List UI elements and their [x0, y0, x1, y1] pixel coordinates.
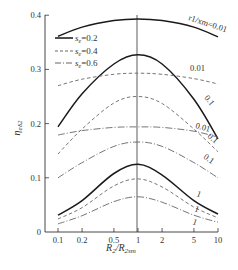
- annotation-0.1-solid: 0.1: [202, 93, 216, 108]
- legend-label: se=0.4: [75, 46, 98, 57]
- y-tick-label: 0.4: [30, 10, 41, 20]
- x-tick-label: 0.1: [53, 235, 64, 245]
- x-axis-label: R2/R2sm: [105, 242, 136, 255]
- curve-dashed: [58, 96, 218, 154]
- annotation-0.01-dashed: 0.01: [190, 63, 205, 73]
- y-tick-label: 0.3: [30, 64, 41, 74]
- y-tick-label: 0.2: [30, 119, 41, 129]
- legend-label: se=0.6: [75, 58, 98, 69]
- x-ticks: 0.10.20.512510: [53, 228, 223, 245]
- annotation-1-solid: 1: [195, 188, 202, 199]
- x-tick-label: 2: [160, 235, 164, 245]
- x-tick-label: 5: [192, 235, 196, 245]
- y-axis-label: ηeδ2: [11, 120, 24, 135]
- x-tick-label: 0.2: [77, 235, 88, 245]
- curve-dashdot: [58, 142, 218, 178]
- y-tick-label: 0: [37, 227, 41, 237]
- x-tick-label: 1: [136, 235, 140, 245]
- chart: 00.10.20.30.4 0.10.20.512510 se=0.2 se=0…: [0, 0, 238, 270]
- y-tick-label: 0.1: [30, 173, 41, 183]
- legend-label: se=0.2: [75, 33, 98, 44]
- annotation-1-dashdot: 1: [191, 216, 198, 227]
- curve-dashed: [58, 73, 218, 86]
- legend: se=0.2 se=0.4 se=0.6: [55, 33, 98, 69]
- annotation-r1xm-0.01-top: r1/xm=0.01: [187, 12, 228, 34]
- annotation-1-dashed: 1: [193, 203, 200, 214]
- annotation-0.1-dashdot: 0.1: [202, 151, 216, 165]
- x-tick-label: 10: [214, 235, 223, 245]
- y-ticks: 00.10.20.30.4: [30, 10, 49, 237]
